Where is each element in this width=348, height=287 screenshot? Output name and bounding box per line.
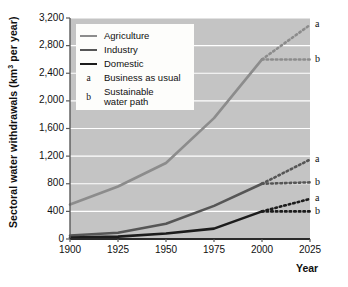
projection-label-a: a (315, 18, 319, 29)
legend-line-swatch (80, 49, 97, 51)
legend-label: Business as usual (104, 72, 181, 83)
projection-label-b: b (315, 53, 320, 64)
y-tick-label: 800 (24, 177, 64, 188)
y-tick-label: 2,400 (24, 67, 64, 78)
x-tick-label: 1950 (143, 244, 189, 255)
legend-line-swatch (80, 63, 97, 65)
chart-figure: Sectoral water withdrawals (km3 per year… (0, 0, 348, 287)
legend-key-a: a (80, 73, 97, 83)
legend-item: Agriculture (76, 30, 149, 41)
legend-label: Domestic (104, 58, 144, 69)
legend: AgricultureIndustryDomesticaBusiness as … (76, 24, 194, 110)
x-tick-label: 1975 (191, 244, 237, 255)
y-tick-label: 1,600 (24, 122, 64, 133)
x-tick-label: 1925 (95, 244, 141, 255)
y-tick-label: 0 (24, 233, 64, 244)
x-tick-label: 2025 (287, 244, 333, 255)
legend-item: bSustainablewater path (76, 87, 154, 108)
legend-label-line2: water path (104, 97, 154, 107)
legend-key-b: b (80, 92, 97, 102)
legend-item: Industry (76, 44, 138, 55)
legend-label: Industry (104, 44, 138, 55)
x-tick-label: 2000 (239, 244, 285, 255)
projection-label-b: b (315, 176, 320, 187)
x-axis-title: Year (296, 262, 318, 274)
y-tick-label: 400 (24, 205, 64, 216)
projection-label-a: a (315, 153, 319, 164)
x-tick-label: 1900 (47, 244, 93, 255)
projection-label-a: a (315, 192, 319, 203)
y-tick-label: 2,000 (24, 94, 64, 105)
legend-label: Agriculture (104, 30, 149, 41)
y-tick-label: 3,200 (24, 12, 64, 23)
legend-label: Sustainablewater path (104, 87, 154, 108)
legend-item: Domestic (76, 58, 144, 69)
legend-line-swatch (80, 35, 97, 37)
y-tick-label: 2,800 (24, 39, 64, 50)
projection-label-b: b (315, 205, 320, 216)
legend-item: aBusiness as usual (76, 72, 181, 83)
y-tick-label: 1,200 (24, 150, 64, 161)
